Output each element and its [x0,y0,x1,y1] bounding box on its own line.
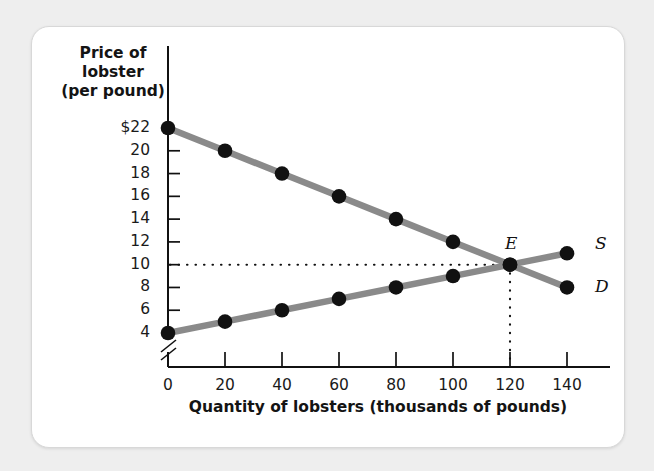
x-axis-ticks [225,352,567,367]
y-axis-tick-label: 20 [92,141,150,159]
data-point-D [446,235,461,250]
y-axis-tick-label: 6 [92,300,150,318]
x-axis-tick-label: 40 [260,376,304,394]
y-axis-tick-label: 10 [92,255,150,273]
x-axis-tick-label: 60 [317,376,361,394]
chart-data-points [161,121,575,341]
supply-curve-label: S [595,233,607,253]
data-point-D [275,166,290,181]
y-axis-tick-label: 14 [92,209,150,227]
y-axis-ticks [168,151,180,333]
x-axis-tick-label: 20 [203,376,247,394]
x-axis-tick-label: 80 [374,376,418,394]
data-point-S [218,314,233,329]
data-point-S [446,269,461,284]
demand-curve-label: D [595,276,609,296]
y-axis-tick-label: $22 [92,118,150,136]
data-point-D [161,121,176,136]
x-axis-tick-label: 120 [488,376,532,394]
x-axis-tick-label: 100 [431,376,475,394]
data-point-D [218,143,233,158]
y-axis-tick-label: 12 [92,232,150,250]
data-point-S [332,292,347,307]
data-point-D [332,189,347,204]
data-point-D [389,212,404,227]
data-point-D [560,280,575,295]
data-point-S [503,257,518,272]
y-axis-tick-label: 4 [92,323,150,341]
data-point-S [560,246,575,261]
y-axis-tick-label: 8 [92,277,150,295]
x-axis-tick-label: 0 [146,376,190,394]
y-axis-tick-label: 18 [92,164,150,182]
equilibrium-point-label: E [505,233,517,253]
y-axis-tick-label: 16 [92,186,150,204]
chart-curves [168,128,567,333]
data-point-S [389,280,404,295]
x-axis-tick-label: 140 [545,376,589,394]
data-point-S [275,303,290,318]
data-point-S [161,326,176,341]
